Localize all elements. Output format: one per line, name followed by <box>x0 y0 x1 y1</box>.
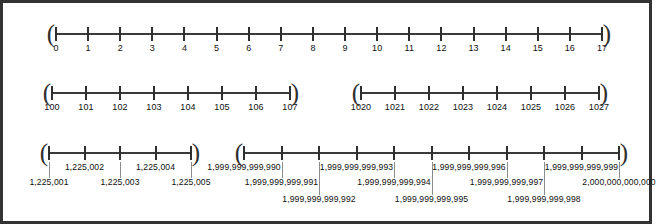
tick-mark <box>243 146 245 160</box>
tick-mark <box>360 86 362 100</box>
tick-label: 1,225,004 <box>136 162 175 172</box>
tick-mark <box>281 146 283 160</box>
tick-label: 1021 <box>385 102 405 112</box>
tick-label: 1,225,002 <box>65 162 104 172</box>
tick-label: 1,999,999,999,990 <box>207 162 280 172</box>
tick-mark <box>51 86 53 100</box>
leader-line <box>394 162 395 178</box>
tick-label: 17 <box>597 43 607 53</box>
tick-mark <box>318 146 320 160</box>
tick-mark <box>440 27 442 41</box>
tick-mark <box>376 27 378 41</box>
tick-label: 9 <box>342 43 347 53</box>
tick-label: 7 <box>278 43 283 53</box>
tick-mark <box>543 146 545 160</box>
tick-mark <box>48 146 50 160</box>
tick-mark <box>505 27 507 41</box>
tick-mark <box>221 86 223 100</box>
tick-mark <box>119 86 121 100</box>
tick-label: 14 <box>501 43 511 53</box>
tick-mark <box>496 86 498 100</box>
tick-label: 15 <box>533 43 543 53</box>
tick-label: 105 <box>214 102 229 112</box>
tick-label: 6 <box>246 43 251 53</box>
tick-label: 4 <box>182 43 187 53</box>
tick-label: 1027 <box>589 102 609 112</box>
tick-label: 1,225,001 <box>29 177 68 187</box>
tick-mark <box>187 86 189 100</box>
tick-mark <box>216 27 218 41</box>
tick-label: 100 <box>44 102 59 112</box>
tick-mark <box>581 146 583 160</box>
tick-mark <box>280 27 282 41</box>
leader-line <box>49 162 50 178</box>
tick-label: 1020 <box>351 102 371 112</box>
tick-label: 106 <box>248 102 263 112</box>
tick-label: 3 <box>150 43 155 53</box>
tick-label: 103 <box>146 102 161 112</box>
leader-line <box>507 162 508 178</box>
tick-mark <box>190 146 192 160</box>
tick-label: 1,999,999,999,993 <box>320 162 393 172</box>
tick-label: 16 <box>565 43 575 53</box>
tick-mark <box>564 86 566 100</box>
leader-line <box>619 162 620 178</box>
tick-label: 1024 <box>487 102 507 112</box>
tick-label: 1,999,999,999,992 <box>282 194 355 204</box>
tick-mark <box>85 86 87 100</box>
tick-mark <box>119 146 121 160</box>
tick-label: 2,000,000,000,000 <box>582 177 655 187</box>
tick-label: 10 <box>372 43 382 53</box>
tick-mark <box>289 86 291 100</box>
tick-label: 13 <box>468 43 478 53</box>
tick-mark <box>183 27 185 41</box>
leader-line <box>120 162 121 178</box>
tick-label: 1026 <box>555 102 575 112</box>
tick-mark <box>248 27 250 41</box>
tick-mark <box>394 86 396 100</box>
tick-mark <box>618 146 620 160</box>
tick-mark <box>569 27 571 41</box>
tick-mark <box>530 86 532 100</box>
tick-mark <box>598 86 600 100</box>
tick-mark <box>468 146 470 160</box>
tick-mark <box>462 86 464 100</box>
tick-label: 1 <box>86 43 91 53</box>
tick-mark <box>537 27 539 41</box>
tick-mark <box>506 146 508 160</box>
tick-label: 1023 <box>453 102 473 112</box>
tick-mark <box>431 146 433 160</box>
tick-label: 5 <box>214 43 219 53</box>
tick-label: 104 <box>180 102 195 112</box>
tick-label: 1,999,999,999,991 <box>245 177 318 187</box>
tick-label: 1,225,003 <box>100 177 139 187</box>
tick-label: 1025 <box>521 102 541 112</box>
tick-mark <box>344 27 346 41</box>
tick-label: 12 <box>436 43 446 53</box>
tick-mark <box>153 86 155 100</box>
leader-line <box>191 162 192 178</box>
tick-mark <box>255 86 257 100</box>
tick-mark <box>119 27 121 41</box>
tick-label: 1,999,999,999,998 <box>507 194 580 204</box>
tick-mark <box>151 27 153 41</box>
tick-label: 1,999,999,999,999 <box>545 162 618 172</box>
tick-mark <box>393 146 395 160</box>
tick-mark <box>601 27 603 41</box>
leader-line <box>282 162 283 178</box>
tick-mark <box>84 146 86 160</box>
tick-label: 0 <box>53 43 58 53</box>
tick-label: 1,999,999,999,995 <box>395 194 468 204</box>
tick-label: 1,999,999,999,996 <box>432 162 505 172</box>
tick-mark <box>408 27 410 41</box>
tick-label: 102 <box>112 102 127 112</box>
tick-label: 107 <box>282 102 297 112</box>
axis-rule <box>56 33 602 35</box>
tick-mark <box>55 27 57 41</box>
tick-label: 1,999,999,999,994 <box>357 177 430 187</box>
tick-label: 1,225,005 <box>171 177 210 187</box>
tick-label: 1,999,999,999,997 <box>470 177 543 187</box>
tick-mark <box>155 146 157 160</box>
tick-label: 2 <box>118 43 123 53</box>
